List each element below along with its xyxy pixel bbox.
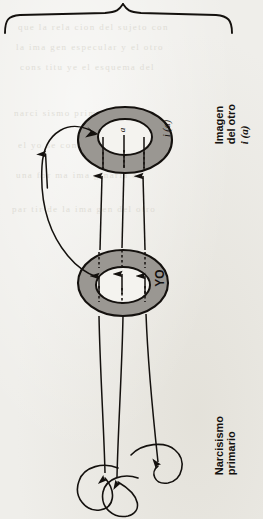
- label-objeto-a: a: [117, 128, 127, 133]
- label-narcisismo-primario: Narcisismo primario: [213, 416, 238, 475]
- label-narcisismo-line2: primario: [225, 416, 237, 475]
- upper-torus: [78, 107, 172, 173]
- narcissism-loops: [77, 444, 182, 516]
- label-yo: YO: [153, 269, 167, 286]
- narcissism-lines: [99, 314, 158, 477]
- label-imagen-del-otro: Imagen del otro i (a): [213, 104, 250, 144]
- label-narcisismo-line1: Narcisismo: [213, 416, 225, 475]
- label-imagen-line3: i (a): [238, 104, 250, 144]
- label-imagen-line1: Imagen: [213, 104, 225, 144]
- top-brace: [5, 4, 232, 33]
- identification-arrows: [100, 166, 145, 250]
- scanned-page: que la rela cion del sujeto con la ima g…: [0, 0, 263, 519]
- label-i-de-a: i (a): [161, 120, 172, 137]
- lower-torus-hole: [96, 267, 150, 303]
- label-imagen-line2: del otro: [225, 104, 237, 144]
